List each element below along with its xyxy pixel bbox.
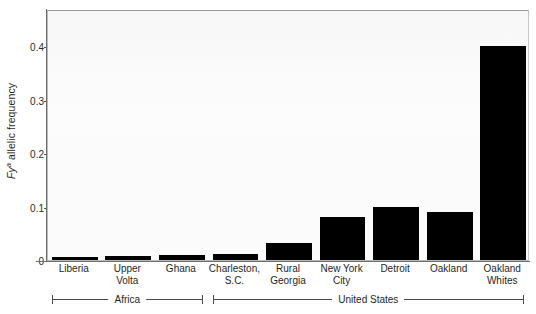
x-axis-line [36,261,530,262]
x-category-label: Charleston,S.C. [208,263,262,286]
group-label: United States [332,292,404,307]
bars-layer [48,11,528,260]
figure: Fya allelic frequency 00.10.20.30.4 Libe… [0,0,536,314]
bar [373,207,419,260]
group-bracket-cap-right [523,295,524,304]
y-tick-label: 0.3 [18,95,44,106]
bar [213,254,259,260]
group-label: Africa [109,292,147,307]
bar [480,46,526,260]
y-tick-label: 0.1 [18,202,44,213]
y-tick-label: 0.4 [18,42,44,53]
bar [105,256,151,260]
x-category-label: New YorkCity [315,263,369,286]
group-bracket-cap-left [52,295,53,304]
x-category-label: UpperVolta [101,263,155,286]
x-category-label: OaklandWhites [475,263,529,286]
group-brackets: AfricaUnited States [0,292,536,314]
bar [320,217,366,260]
x-category-label: Oakland [422,263,476,275]
bar [427,212,473,260]
bar [159,255,205,260]
group-bracket-cap-right [202,295,203,304]
x-category-label: RuralGeorgia [261,263,315,286]
x-category-label: Ghana [154,263,208,275]
y-tick-label: 0.2 [18,149,44,160]
x-axis-category-labels: LiberiaUpperVoltaGhanaCharleston,S.C.Rur… [47,263,529,289]
y-axis-superscript: a [4,163,13,167]
x-category-label: Liberia [47,263,101,275]
group-bracket: United States [213,292,524,312]
group-bracket: Africa [52,292,203,312]
group-bracket-cap-left [213,295,214,304]
x-category-label: Detroit [368,263,422,275]
bar [266,243,312,260]
bar [52,257,98,260]
y-axis-tick-labels: 00.10.20.30.4 [14,0,44,262]
plot-area [47,10,529,261]
